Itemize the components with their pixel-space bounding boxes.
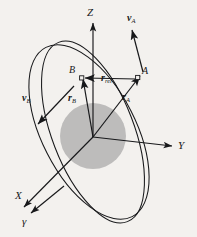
r-a-vector-label: rA — [122, 92, 130, 102]
x-axis-label: X — [15, 190, 22, 201]
gamma-direction-line — [31, 186, 64, 213]
r-rel-vector-label: rrel — [101, 73, 112, 83]
point-a-label: A — [142, 66, 148, 76]
r-b-subscript: B — [72, 97, 76, 104]
v-a-vector-label: vA — [127, 13, 135, 23]
z-axis-label: Z — [87, 7, 93, 18]
v-a-subscript: A — [131, 17, 135, 24]
r-rel-subscript: rel — [105, 77, 112, 84]
figure-canvas — [0, 0, 197, 237]
r-b-vector-label: rB — [68, 93, 76, 103]
orbital-mechanics-figure: Z Y X γ B A vA vB rrel rB rA — [0, 0, 197, 237]
satellite-b-marker — [80, 76, 84, 80]
gamma-axis-label: γ — [22, 216, 26, 227]
v-b-subscript: B — [26, 97, 30, 104]
satellite-a-marker — [136, 75, 140, 79]
y-axis-label: Y — [178, 140, 184, 151]
r-a-subscript: A — [126, 96, 130, 103]
point-b-label: B — [69, 65, 75, 75]
v-b-vector-label: vB — [22, 93, 30, 103]
